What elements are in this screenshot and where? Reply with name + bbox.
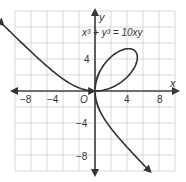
plot-area: x y O x³ + y³ = 10xy −8 −4 4 8 4 −4 −8 — [0, 0, 186, 182]
folium-loop — [95, 49, 137, 91]
tick-y-neg8: −8 — [76, 151, 88, 162]
tick-x-neg8: −8 — [20, 94, 32, 105]
tick-y-4: 4 — [84, 54, 90, 65]
tick-x-8: 8 — [157, 94, 163, 105]
equation-label: x³ + y³ = 10xy — [81, 27, 144, 38]
tick-x-neg4: −4 — [47, 94, 59, 105]
tick-y-neg4: −4 — [76, 118, 88, 129]
origin-label: O — [80, 94, 88, 105]
y-axis-label: y — [98, 11, 106, 23]
graph: x y O x³ + y³ = 10xy −8 −4 4 8 4 −4 −8 — [0, 0, 186, 182]
x-axis-label: x — [169, 77, 176, 89]
folium-curve — [3, 25, 94, 91]
tick-x-4: 4 — [124, 94, 130, 105]
folium-lower-branch — [95, 93, 150, 172]
